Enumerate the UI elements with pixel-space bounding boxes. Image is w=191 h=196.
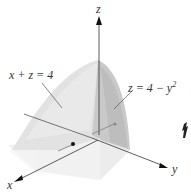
cropped-mark-icon [182, 122, 188, 138]
y-axis-label: y [171, 162, 178, 176]
point-back [114, 123, 117, 126]
z-axis-arrowhead [96, 16, 102, 25]
solid-region-diagram: z y x x + z = 4 z = 4 − y2 [0, 0, 191, 196]
x-axis-label: x [6, 178, 13, 192]
cylinder-label-exponent: 2 [172, 80, 176, 89]
cylinder-label-main: z = 4 − y [127, 81, 173, 95]
plane-label: x + z = 4 [8, 68, 53, 82]
y-axis-arrowhead [159, 163, 168, 168]
point-front [71, 142, 75, 146]
cylinder-label: z = 4 − y2 [127, 80, 176, 95]
z-axis-label: z [95, 2, 101, 16]
x-axis-arrowhead [14, 175, 23, 182]
